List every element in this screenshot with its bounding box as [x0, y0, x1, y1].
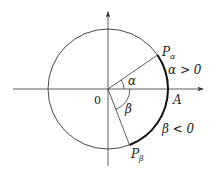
angle-alpha-label: α: [128, 74, 136, 88]
point-a-label: A: [172, 93, 182, 107]
arc-beta: [130, 89, 169, 145]
alpha-condition-label: α > 0: [168, 63, 202, 77]
angle-arc-alpha: [121, 80, 124, 89]
point-p-beta-label: Pβ: [130, 147, 144, 163]
beta-condition-label: β < 0: [161, 122, 195, 136]
ray-p-beta: [108, 89, 130, 145]
arc-alpha: [158, 55, 169, 89]
origin-label: 0: [94, 94, 101, 107]
unit-circle-diagram: 0 A Pα Pβ α β α > 0 β < 0: [0, 0, 213, 171]
angle-beta-label: β: [124, 102, 132, 116]
point-p-alpha-label: Pα: [161, 45, 176, 61]
